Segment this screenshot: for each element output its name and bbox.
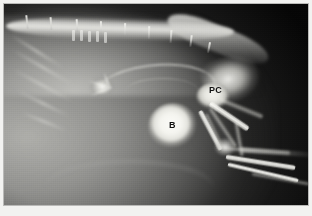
bone-tibia-near — [197, 110, 223, 152]
bone-fibula — [204, 113, 225, 151]
bone-metatarsus-1 — [226, 154, 296, 171]
bone-metatarsus-3 — [224, 146, 290, 156]
mineral-spur — [88, 80, 113, 90]
vertebral-column — [6, 15, 234, 43]
spinous-process — [207, 42, 211, 53]
bowel-gas-contour — [95, 61, 217, 117]
spinous-process — [189, 35, 192, 47]
rib — [13, 69, 73, 103]
radiograph-figure: B PC — [0, 0, 312, 216]
annotation-label-bladder: B — [169, 121, 176, 130]
mineral-spur — [90, 86, 113, 97]
radiograph-plate: B PC — [4, 4, 308, 205]
mineral-opacity — [86, 74, 118, 100]
spinous-process — [50, 17, 53, 30]
bone-digit-row — [252, 172, 308, 186]
dorsal-contour-layer — [4, 4, 308, 96]
annotation-label-prostate-colon: PC — [209, 86, 222, 95]
bone-femur-near — [208, 101, 250, 133]
mineral-spur — [103, 72, 111, 90]
sacral-spine-segment — [163, 7, 273, 72]
vertebral-segment — [104, 32, 107, 43]
bone-femur-far — [217, 96, 264, 120]
spinous-process — [170, 30, 173, 43]
bone-tibia-far — [208, 107, 238, 148]
rib — [10, 34, 64, 69]
pelvis-structure — [197, 49, 268, 109]
bowel-gas-contour-secondary — [124, 78, 198, 105]
spinous-process — [124, 23, 126, 36]
vignette-overlay — [4, 4, 308, 205]
spinous-process — [25, 15, 28, 29]
rib — [16, 89, 69, 117]
tail-structure — [240, 147, 308, 158]
bone-stifle-link — [234, 122, 245, 156]
film-grain-overlay — [4, 4, 308, 205]
vertebral-segment — [80, 30, 83, 41]
vertebral-segment — [72, 30, 75, 41]
bone-metatarsus-2 — [227, 162, 298, 183]
rib — [21, 111, 67, 132]
spinous-process — [148, 26, 150, 39]
vertebral-segment — [96, 31, 99, 42]
hip-joint — [212, 136, 238, 158]
soft-tissue-layer — [4, 16, 278, 205]
spinous-process — [100, 21, 102, 34]
ventral-abdominal-wall — [44, 160, 214, 205]
rib — [12, 49, 74, 87]
spinous-process — [76, 19, 79, 32]
vertebral-segment — [88, 31, 91, 42]
air-background-layer — [4, 4, 308, 205]
radiograph-plate-frame: B PC — [3, 3, 309, 206]
